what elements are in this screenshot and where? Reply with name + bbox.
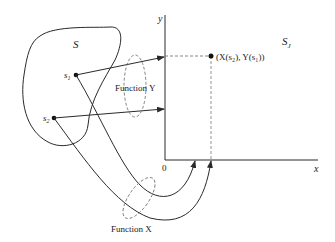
set-s-label: S xyxy=(73,38,79,50)
mapped-point xyxy=(209,54,214,59)
y-axis-label: y xyxy=(157,13,163,24)
set-sj-label: SJ xyxy=(282,35,292,50)
point-s2-label: s2 xyxy=(43,113,50,124)
x-axis-label: x xyxy=(313,163,319,174)
joint-mapping-diagram: S y x 0 SJ (X(s₂), Y(s₁)) s1 s2 Function… xyxy=(0,0,335,242)
function-y-arrow-s1 xyxy=(76,57,164,75)
function-y-label: Function Y xyxy=(115,83,156,93)
point-s1-label: s1 xyxy=(64,70,71,81)
function-x-curve-s2 xyxy=(54,118,211,220)
function-x-label: Function X xyxy=(111,224,152,234)
mapped-point-label: (X(s₂), Y(s₁)) xyxy=(216,52,264,62)
function-y-arrow-s2 xyxy=(54,109,164,118)
function-x-curve-s1 xyxy=(76,75,195,196)
origin-label: 0 xyxy=(162,163,167,173)
function-x-ellipse xyxy=(117,173,161,224)
sample-space-region xyxy=(23,27,121,146)
